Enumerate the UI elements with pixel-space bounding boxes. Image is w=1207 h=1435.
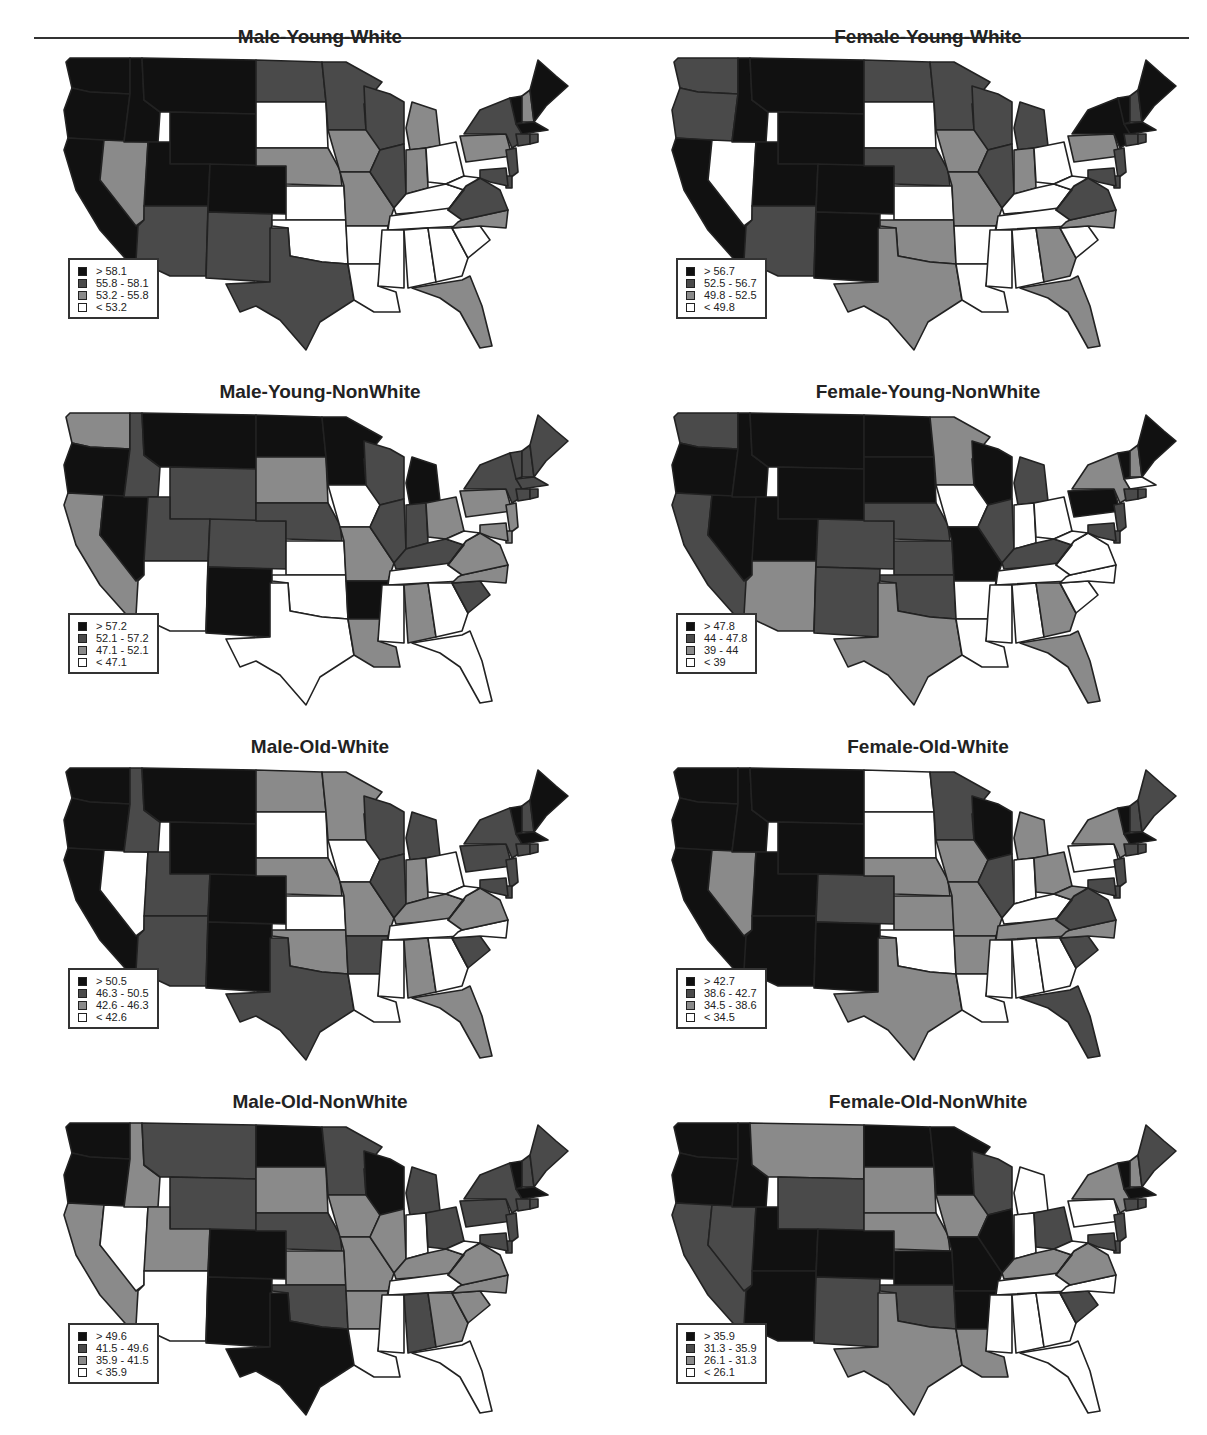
map-title: Male-Young-White [60,26,580,48]
state-pa [460,134,512,162]
legend-swatch-icon [686,658,695,667]
map-legend: > 49.641.5 - 49.635.9 - 41.5< 35.9 [68,1323,159,1384]
state-me [1138,770,1176,832]
state-ct [1124,1199,1138,1211]
state-in [1014,148,1036,194]
state-nm [206,922,272,992]
legend-item: > 57.2 [78,620,149,632]
legend-label: > 57.2 [96,620,127,632]
state-ma [516,832,548,844]
legend-item: > 35.9 [686,1330,757,1342]
state-in [1014,858,1036,904]
map-legend: > 58.155.8 - 58.153.2 - 55.8< 53.2 [68,258,159,319]
state-sd [256,457,328,503]
legend-label: 52.1 - 57.2 [96,632,149,644]
state-co [208,164,286,214]
state-ct [516,1199,530,1211]
legend-swatch-icon [78,658,87,667]
state-ks [894,896,954,930]
legend-label: > 50.5 [96,975,127,987]
legend-label: 44 - 47.8 [704,632,747,644]
legend-item: < 26.1 [686,1366,757,1378]
state-in [1014,1213,1036,1259]
state-mi [406,457,440,505]
state-sd [256,1167,328,1213]
state-ks [894,1251,954,1285]
legend-swatch-icon [686,291,695,300]
legend-label: 49.8 - 52.5 [704,289,757,301]
map-title: Male-Old-White [60,736,580,758]
state-wy [778,1177,864,1231]
legend-item: < 39 [686,656,747,668]
state-mt [750,413,864,469]
legend-label: > 42.7 [704,975,735,987]
state-nd [256,770,326,812]
state-or [64,443,130,497]
legend-swatch-icon [78,977,87,986]
state-fl [1020,1341,1100,1413]
legend-label: 53.2 - 55.8 [96,289,149,301]
legend-swatch-icon [78,1344,87,1353]
state-or [672,1153,738,1207]
state-mi [406,812,440,860]
state-mt [142,1123,256,1179]
state-mt [750,768,864,824]
state-wy [170,822,256,876]
state-wy [170,112,256,166]
legend-swatch-icon [78,267,87,276]
map-panel-female-young-white: Female-Young-White> 56.752.5 - 56.749.8 … [668,26,1188,326]
state-ms [986,1295,1012,1353]
legend-item: < 35.9 [78,1366,149,1378]
legend-swatch-icon [78,303,87,312]
map-panel-female-young-nonwhite: Female-Young-NonWhite> 47.844 - 47.839 -… [668,381,1188,681]
state-or [64,88,130,142]
state-ma [1124,477,1156,489]
state-ms [378,1295,404,1353]
legend-label: 52.5 - 56.7 [704,277,757,289]
state-nm [814,212,880,282]
state-ms [986,230,1012,288]
state-ks [286,186,346,220]
state-mi [1014,457,1048,505]
state-in [406,503,428,549]
state-sd [256,102,328,148]
state-or [672,798,738,852]
map-title: Male-Young-NonWhite [60,381,580,403]
state-in [1014,503,1036,549]
state-pa [460,1199,512,1227]
map-title: Female-Young-White [668,26,1188,48]
legend-swatch-icon [78,1332,87,1341]
state-mi [1014,812,1048,860]
state-mt [750,58,864,114]
state-me [530,60,568,122]
legend-item: 34.5 - 38.6 [686,999,757,1011]
state-fl [1020,276,1100,348]
legend-swatch-icon [78,634,87,643]
state-ms [378,940,404,998]
state-nm [814,567,880,637]
state-me [1138,415,1176,477]
legend-swatch-icon [686,1356,695,1365]
state-sd [864,457,936,503]
state-ks [286,896,346,930]
legend-item: 53.2 - 55.8 [78,289,149,301]
map-legend: > 56.752.5 - 56.749.8 - 52.5< 49.8 [676,258,767,319]
state-mt [750,1123,864,1179]
state-nj [506,503,518,533]
legend-swatch-icon [686,1344,695,1353]
state-ri [530,1199,538,1209]
state-fl [1020,986,1100,1058]
state-wy [170,467,256,521]
legend-swatch-icon [78,1368,87,1377]
legend-item: > 50.5 [78,975,149,987]
state-ks [894,186,954,220]
state-sd [256,812,328,858]
legend-item: > 56.7 [686,265,757,277]
state-ct [516,489,530,501]
map-panel-male-old-white: Male-Old-White> 50.546.3 - 50.542.6 - 46… [60,736,580,1036]
state-me [530,415,568,477]
state-ri [1138,134,1146,144]
legend-swatch-icon [686,646,695,655]
legend-item: 52.1 - 57.2 [78,632,149,644]
state-pa [1068,134,1120,162]
